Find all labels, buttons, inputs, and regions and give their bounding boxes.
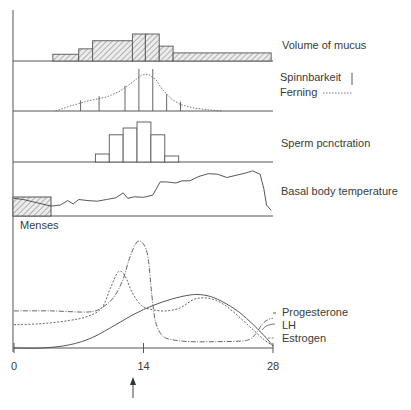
legend-lh: LH bbox=[282, 319, 296, 331]
ferning-label: Ferning bbox=[280, 86, 317, 98]
menstrual-cycle-diagram: 01428 Volume of mucus Spinnbarkeit Ferni… bbox=[0, 0, 411, 410]
mucus-bar bbox=[145, 34, 159, 61]
x-tick-label: 14 bbox=[137, 360, 149, 372]
mucus-histogram bbox=[53, 34, 271, 61]
sperm-bar bbox=[123, 128, 137, 162]
menses-hatched-block bbox=[13, 197, 51, 216]
sperm-bar bbox=[95, 154, 109, 162]
sperm-penetration-label: Sperm pcnctration bbox=[281, 137, 370, 149]
bbt-label: Basal body temperature bbox=[281, 185, 398, 197]
mucus-bar bbox=[79, 49, 93, 61]
legend-progesterone: Progesterone bbox=[282, 306, 348, 318]
sperm-bar bbox=[109, 135, 123, 162]
lh-legend-line bbox=[262, 324, 275, 330]
mucus-bar bbox=[173, 53, 271, 61]
mucus-bar bbox=[159, 46, 173, 61]
sperm-bar bbox=[151, 135, 165, 162]
menses-label: Menses bbox=[20, 219, 59, 231]
spinnbarkeit-label: Spinnbarkeit bbox=[280, 71, 341, 83]
mucus-bar bbox=[53, 54, 79, 61]
sperm-bar bbox=[137, 122, 151, 162]
x-tick-label: 28 bbox=[267, 360, 279, 372]
legend-estrogen: Estrogen bbox=[282, 332, 326, 344]
sperm-bar bbox=[165, 156, 179, 162]
ovulation-arrow-icon bbox=[130, 377, 136, 385]
mucus-bar bbox=[132, 34, 145, 61]
progesterone-curve bbox=[14, 294, 273, 348]
x-tick-label: 0 bbox=[11, 360, 17, 372]
lh-curve bbox=[14, 241, 273, 342]
basal-body-temperature-curve bbox=[14, 171, 271, 211]
mucus-bar bbox=[93, 41, 133, 61]
spinnbarkeit-lines bbox=[81, 69, 181, 111]
mucus-label: Volume of mucus bbox=[282, 39, 367, 51]
sperm-penetration-histogram bbox=[95, 122, 178, 162]
